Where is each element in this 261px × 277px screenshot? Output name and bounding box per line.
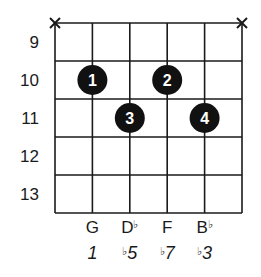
chord-diagram: 9101112131234GD♭FB♭1♭5♭7♭3: [0, 0, 261, 277]
finger-number: 4: [200, 110, 209, 127]
note-name-label: G: [86, 218, 99, 237]
fret-number-label: 12: [20, 147, 39, 166]
interval-label: ♭5: [122, 243, 138, 263]
finger-number: 2: [163, 72, 172, 89]
note-name-label: D♭: [121, 218, 138, 237]
fret-number-label: 11: [21, 109, 39, 128]
finger-number: 1: [88, 72, 97, 89]
interval-label: ♭7: [160, 243, 176, 263]
fret-number-label: 10: [20, 71, 39, 90]
note-name-label: B♭: [196, 218, 212, 237]
interval-label: ♭3: [197, 243, 212, 263]
finger-number: 3: [125, 110, 134, 127]
note-name-label: F: [162, 218, 172, 237]
interval-label: 1: [87, 243, 97, 263]
fret-number-label: 13: [20, 185, 39, 204]
fret-number-label: 9: [30, 33, 39, 52]
